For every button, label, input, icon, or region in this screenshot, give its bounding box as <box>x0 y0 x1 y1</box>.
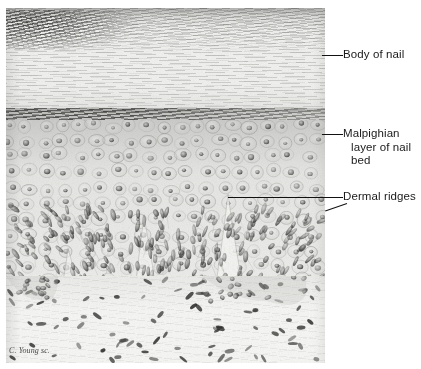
layer-malpighian <box>6 120 325 296</box>
label-body-of-nail-line-1: Body of nail <box>343 48 404 60</box>
layer-body-of-nail <box>6 8 325 112</box>
malpighian-cell-field <box>6 120 325 296</box>
layer-dermis <box>6 276 325 363</box>
illustrator-signature: C. Young sc. <box>9 347 50 355</box>
leader-line-body-of-nail <box>322 55 343 56</box>
dermis-fibroblast-field <box>6 276 325 363</box>
nail-dense-keratin-wedge <box>6 10 138 50</box>
label-malpighian-line-1: Malpighian <box>343 127 400 139</box>
leader-line-dermal-ridges <box>228 197 343 198</box>
leader-line-dermal-ridges-tick <box>325 203 347 211</box>
label-malpighian-line-2: layer of nail <box>343 141 411 155</box>
leader-line-malpighian <box>322 134 343 135</box>
label-body-of-nail: Body of nail <box>343 48 404 62</box>
micrograph-image <box>6 8 325 363</box>
label-dermal-ridges: Dermal ridges <box>343 190 416 204</box>
label-malpighian: Malpighian layer of nail bed <box>343 127 411 168</box>
label-malpighian-line-3: bed <box>343 154 411 168</box>
figure-plate: C. Young sc. Body of nail Malpighian lay… <box>0 0 421 369</box>
label-dermal-ridges-line-1: Dermal ridges <box>343 190 416 202</box>
